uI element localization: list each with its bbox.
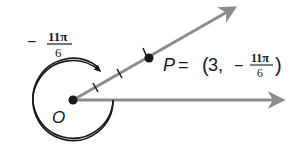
terminal-side-ray (73, 8, 234, 100)
angle-sign: − (27, 33, 36, 50)
point-r-value: 3, (208, 55, 223, 75)
origin-label: O (52, 108, 65, 127)
point-close-paren: ) (275, 54, 282, 76)
angle-denominator: 6 (55, 45, 62, 60)
polar-angle-diagram: O − 11π 6 P = ( 3, − 11π 6 ) (0, 0, 301, 146)
point-theta-numerator: 11π (251, 51, 269, 65)
point-theta-denominator: 6 (257, 66, 263, 80)
unit-tick-3 (143, 48, 146, 55)
origin-point (69, 96, 78, 105)
point-p (145, 54, 154, 63)
point-theta-sign: − (234, 57, 243, 74)
point-name: P (163, 55, 175, 75)
angle-numerator: 11π (48, 29, 67, 44)
point-equals: = (178, 55, 189, 75)
